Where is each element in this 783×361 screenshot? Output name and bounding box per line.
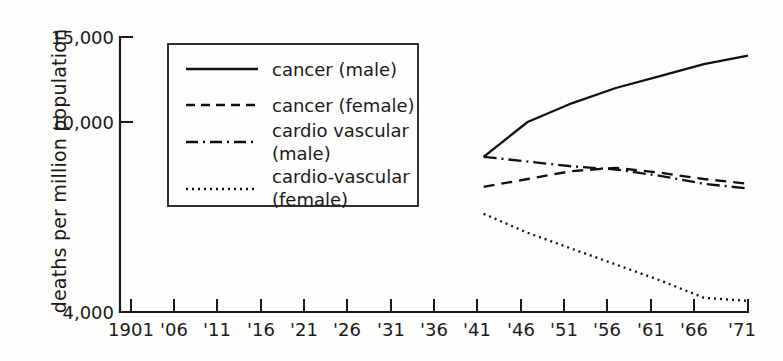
x-tick-label: '51 [550,319,578,340]
series-cardio-vascular-female [484,214,748,301]
y-axis-ticks [120,37,133,312]
y-tick-label: 4,000 [62,302,114,323]
x-tick-label: '41 [463,319,491,340]
x-tick-label: '11 [203,319,231,340]
legend: cancer (male) cancer (female) cardio vas… [168,44,418,210]
x-tick-label: '26 [333,319,361,340]
legend-label-line2: (male) [272,143,331,164]
x-tick-label: '16 [247,319,275,340]
x-tick-label: '66 [680,319,708,340]
x-tick-label: '56 [593,319,621,340]
chart-figure: deaths per million population 15,000 10,… [0,0,783,361]
y-tick-label: 15,000 [51,27,114,48]
x-tick-label: '21 [290,319,318,340]
x-tick-label: 1901 [108,319,154,340]
legend-label: cardio-vascular [272,166,410,187]
legend-label: cardio vascular [272,120,410,141]
x-tick-label: '61 [637,319,665,340]
chart-canvas: 15,000 10,000 4,000 1901 '06 '11 [0,0,783,361]
series-cardio-vascular-male [484,157,748,189]
legend-label: cancer (female) [272,95,415,116]
x-tick-label: '06 [160,319,188,340]
x-tick-label: '36 [420,319,448,340]
x-axis-tick-labels: 1901 '06 '11 '16 '21 '26 '31 '36 '41 '46… [108,319,756,340]
legend-label-line2: (female) [272,189,348,210]
x-tick-label: '31 [377,319,405,340]
series-cancer-male [484,56,748,157]
y-tick-label: 10,000 [51,112,114,133]
x-tick-label: '46 [507,319,535,340]
y-axis-tick-labels: 15,000 10,000 4,000 [51,27,114,323]
data-series-group [484,56,748,301]
x-axis-ticks [131,299,748,312]
x-tick-label: '71 [728,319,756,340]
legend-label: cancer (male) [272,59,397,80]
